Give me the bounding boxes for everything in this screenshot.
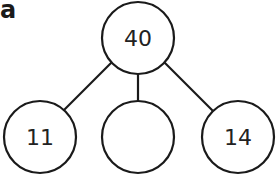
number-bond-diagram: 40 11 14 [0, 0, 280, 180]
child-node-middle [102, 101, 174, 173]
edge-root-right [164, 62, 214, 112]
child-right-value: 14 [224, 125, 252, 150]
edge-root-left [62, 62, 112, 112]
child-left-value: 11 [26, 125, 54, 150]
root-value: 40 [124, 26, 152, 51]
